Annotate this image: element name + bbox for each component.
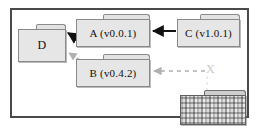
diagram-canvas: D A (v0.0.1) B (v0.4.2) C (v1.0.1) X [0, 0, 264, 132]
package-node-a[interactable]: A (v0.0.1) [76, 14, 150, 47]
package-node-b[interactable]: B (v0.4.2) [76, 54, 150, 87]
package-node-redacted[interactable] [180, 90, 246, 125]
package-label: D [18, 29, 66, 62]
package-label-redacted [180, 95, 246, 125]
package-label: A (v0.0.1) [76, 19, 150, 47]
package-label: C (v1.0.1) [177, 19, 240, 47]
package-label: B (v0.4.2) [76, 59, 150, 87]
x-marker: X [206, 62, 215, 77]
package-node-c[interactable]: C (v1.0.1) [177, 14, 240, 47]
package-node-d[interactable]: D [18, 24, 66, 62]
edge-a-to-d [68, 33, 76, 38]
